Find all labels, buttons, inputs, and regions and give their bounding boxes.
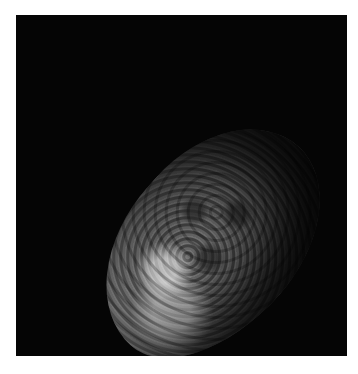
photo-frame: [16, 15, 347, 356]
moon-image: [61, 90, 347, 356]
